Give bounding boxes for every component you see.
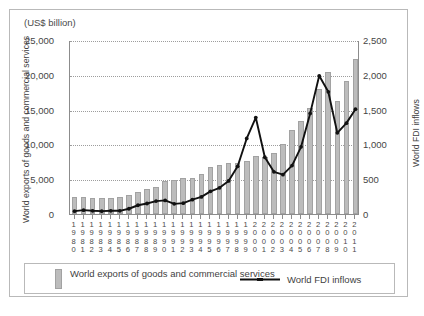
bottom-cut-text-strip: [0, 303, 417, 316]
line-marker: [145, 202, 149, 206]
x-tick: [92, 215, 93, 219]
line-marker: [200, 195, 204, 199]
line-marker: [335, 131, 339, 135]
line-marker: [317, 74, 321, 78]
y-tick-label-right: 1,000: [363, 139, 424, 150]
line-marker: [345, 121, 349, 125]
x-tick-label-digit: 1: [349, 246, 359, 254]
line-marker: [263, 155, 267, 159]
line-marker: [82, 208, 86, 212]
plot-area: [69, 41, 359, 215]
line-marker: [281, 173, 285, 177]
line-marker: [209, 189, 213, 193]
x-tick: [182, 215, 183, 219]
line-marker: [190, 198, 194, 202]
x-tick: [282, 215, 283, 219]
line-marker: [299, 145, 303, 149]
x-tick: [83, 215, 84, 219]
x-tick: [264, 215, 265, 219]
y-tick-label-right: 2,000: [363, 70, 424, 81]
x-tick: [228, 215, 229, 219]
x-tick: [327, 215, 328, 219]
x-tick: [255, 215, 256, 219]
x-tick: [137, 215, 138, 219]
line-marker: [127, 207, 131, 211]
line-marker: [308, 111, 312, 115]
legend-line-marker: [240, 278, 280, 281]
line-series: [70, 41, 360, 215]
line-path: [75, 76, 356, 211]
line-marker: [354, 107, 358, 111]
line-marker: [227, 179, 231, 183]
x-tick: [318, 215, 319, 219]
x-tick: [101, 215, 102, 219]
legend-bar-label-line1: World exports of goods: [70, 268, 168, 279]
x-tick: [110, 215, 111, 219]
x-tick-label: 2011: [349, 221, 359, 255]
x-tick: [191, 215, 192, 219]
y-tick-label-right: 1,500: [363, 105, 424, 116]
unit-label: (US$ billion): [24, 17, 76, 28]
line-marker: [118, 209, 122, 213]
y-tick-label-right: 2,500: [363, 35, 424, 46]
top-cut-text-strip: [0, 0, 417, 9]
x-tick: [273, 215, 274, 219]
line-marker: [245, 137, 249, 141]
legend-bar-swatch: [55, 269, 62, 289]
x-tick: [345, 215, 346, 219]
x-tick: [291, 215, 292, 219]
y-tick-label-left: 0: [0, 209, 54, 220]
chart-legend: World exports of goods and commercial se…: [24, 263, 395, 294]
x-tick: [200, 215, 201, 219]
x-tick: [300, 215, 301, 219]
line-marker: [290, 164, 294, 168]
y-tick-label-right: 500: [363, 174, 424, 185]
line-marker: [136, 203, 140, 207]
line-marker: [100, 209, 104, 213]
line-marker: [172, 202, 176, 206]
y-tick-label-left: 25,000: [0, 35, 54, 46]
legend-line-label: World FDI inflows: [287, 274, 361, 285]
x-tick: [119, 215, 120, 219]
x-tick: [209, 215, 210, 219]
line-marker: [218, 186, 222, 190]
x-tick: [309, 215, 310, 219]
x-tick: [237, 215, 238, 219]
x-tick: [164, 215, 165, 219]
line-marker: [91, 209, 95, 213]
line-marker: [236, 164, 240, 168]
y-tick-label-left: 5,000: [0, 174, 54, 185]
y-tick-label-left: 10,000: [0, 139, 54, 150]
y-tick-label-left: 20,000: [0, 70, 54, 81]
line-marker: [163, 198, 167, 202]
line-marker: [272, 170, 276, 174]
y-tick-label-right: 0: [363, 209, 424, 220]
line-marker: [154, 199, 158, 203]
x-tick: [173, 215, 174, 219]
x-tick: [155, 215, 156, 219]
chart-figure: (US$ billion) World exports of goods and…: [9, 9, 408, 297]
line-marker: [73, 209, 77, 213]
line-marker: [181, 201, 185, 205]
line-marker: [254, 116, 258, 120]
x-tick: [128, 215, 129, 219]
x-tick: [74, 215, 75, 219]
x-tick: [246, 215, 247, 219]
x-tick: [219, 215, 220, 219]
y-tick-label-left: 15,000: [0, 105, 54, 116]
x-tick: [336, 215, 337, 219]
x-axis-labels: 1980198119821983198419851986198719881989…: [69, 221, 359, 261]
x-tick: [354, 215, 355, 219]
x-tick: [146, 215, 147, 219]
line-marker: [109, 209, 113, 213]
line-marker: [326, 90, 330, 94]
